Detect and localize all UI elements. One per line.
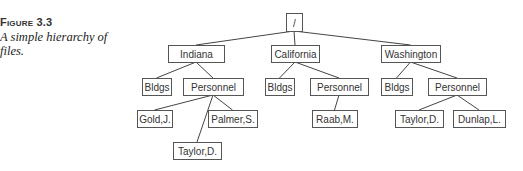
edge-california-to-ca-personnel — [295, 62, 339, 78]
node-label: Personnel — [435, 82, 480, 93]
node-label: California — [274, 49, 317, 60]
file-hierarchy-diagram: /IndianaCaliforniaWashingtonBldgsPersonn… — [0, 0, 523, 171]
node-root: / — [287, 14, 303, 32]
node-label: Personnel — [191, 82, 236, 93]
edge-root-to-california — [294, 31, 295, 45]
node-wa-personnel: Personnel — [429, 79, 487, 96]
node-wa-bldgs: Bldgs — [382, 79, 413, 96]
edge-washington-to-wa-personnel — [411, 62, 458, 78]
node-label: / — [293, 18, 296, 29]
edge-root-to-washington — [294, 31, 411, 45]
node-label: Bldgs — [384, 82, 409, 93]
edge-indiana-to-in-personnel — [196, 62, 213, 78]
node-washington: Washington — [382, 46, 441, 63]
node-label: Indiana — [180, 49, 213, 60]
node-gold: Gold,J. — [138, 111, 173, 128]
node-label: Gold,J. — [139, 114, 171, 125]
node-label: Palmer,S. — [211, 114, 254, 125]
edge-indiana-to-in-bldgs — [157, 62, 197, 78]
node-label: Personnel — [317, 82, 362, 93]
edge-ca-personnel-to-raab — [335, 95, 340, 110]
node-label: Dunlap,L. — [458, 114, 501, 125]
node-ca-bldgs: Bldgs — [266, 79, 295, 96]
node-dunlap: Dunlap,L. — [454, 111, 506, 128]
edge-wa-personnel-to-dunlap — [457, 95, 479, 110]
node-ca-personnel: Personnel — [311, 79, 369, 96]
node-indiana: Indiana — [169, 46, 225, 63]
node-palmer: Palmer,S. — [209, 111, 258, 128]
node-label: Taylor,D. — [400, 114, 439, 125]
edge-in-personnel-to-gold — [155, 95, 214, 110]
node-label: Bldgs — [267, 82, 292, 93]
node-california: California — [272, 46, 320, 63]
node-in-taylor: Taylor,D. — [174, 143, 222, 160]
node-label: Raab,M. — [316, 114, 354, 125]
edge-root-to-indiana — [196, 31, 294, 45]
node-label: Bldgs — [144, 82, 169, 93]
node-wa-taylor: Taylor,D. — [396, 111, 444, 128]
node-label: Taylor,D. — [178, 146, 217, 157]
node-in-personnel: Personnel — [184, 79, 244, 96]
tree-nodes: /IndianaCaliforniaWashingtonBldgsPersonn… — [138, 14, 506, 160]
edge-wa-personnel-to-wa-taylor — [419, 95, 457, 110]
edge-california-to-ca-bldgs — [280, 62, 296, 78]
node-in-bldgs: Bldgs — [143, 79, 172, 96]
node-label: Washington — [385, 49, 437, 60]
node-raab: Raab,M. — [313, 111, 358, 128]
edge-washington-to-wa-bldgs — [397, 62, 411, 78]
edge-in-personnel-to-palmer — [213, 95, 233, 110]
